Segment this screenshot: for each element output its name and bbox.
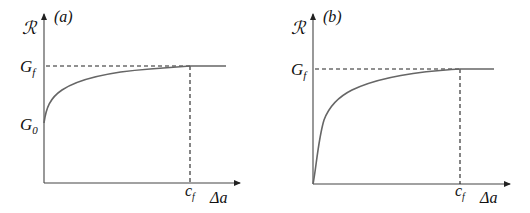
cf-tick-label: cf (455, 182, 466, 202)
g0-tick-label: G0 (20, 115, 38, 136)
gf-tick-label: Gf (20, 57, 37, 78)
cf-tick-label: cf (185, 182, 196, 202)
y-axis-label: ℛ (22, 18, 38, 38)
panel-a: (a) ℛ Gf G0 cf Δa (20, 8, 240, 206)
r-curve (313, 69, 494, 184)
figure: (a) ℛ Gf G0 cf Δa (b) ℛ Gf cf Δa (0, 0, 530, 213)
panel-b: (b) ℛ Gf cf Δa (291, 8, 510, 206)
r-curve (44, 66, 226, 123)
panel-label: (b) (323, 8, 342, 26)
panel-label: (a) (54, 8, 73, 26)
gf-tick-label: Gf (291, 60, 308, 81)
x-axis-label: Δa (209, 189, 227, 206)
x-axis-label: Δa (479, 189, 497, 206)
y-axis-label: ℛ (291, 18, 307, 38)
